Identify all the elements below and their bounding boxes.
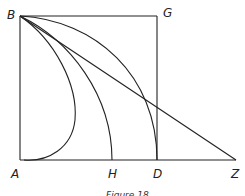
figure-caption: Figure 18 [106, 190, 149, 196]
curve-B-to-A [20, 16, 75, 160]
label-Z: Z [230, 167, 240, 181]
label-A: A [10, 167, 19, 181]
segment-BZ [20, 16, 236, 160]
label-B: B [7, 8, 15, 22]
curve-B-to-H [20, 16, 112, 160]
label-D: D [153, 167, 162, 181]
label-G: G [163, 6, 172, 20]
curve-B-to-D [20, 16, 157, 160]
diagram-canvas: B G A H D Z Figure 18 [0, 0, 245, 196]
geometry-figure: B G A H D Z Figure 18 [0, 0, 245, 196]
label-H: H [108, 167, 117, 181]
